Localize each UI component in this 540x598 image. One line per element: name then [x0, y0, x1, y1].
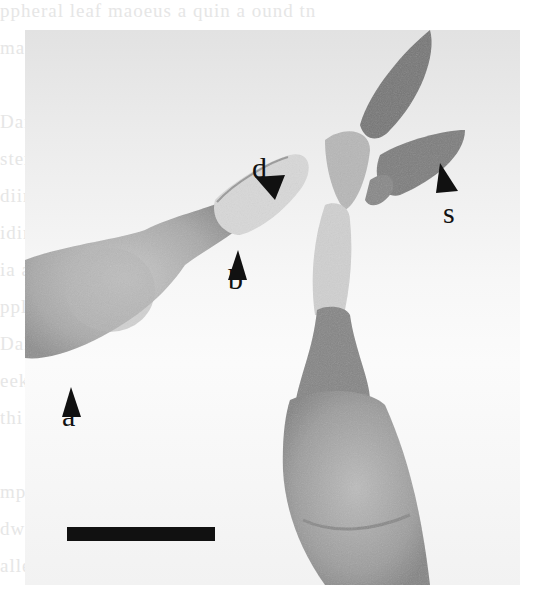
- scale-bar: [67, 527, 215, 541]
- label-a: a: [62, 401, 75, 431]
- bleed-through-line: ppheral leaf maoeus a quin a ound tn: [0, 0, 540, 30]
- specimen-illustration: [25, 30, 520, 585]
- label-b: b: [228, 264, 243, 294]
- micrograph-figure: d s b a: [25, 30, 520, 585]
- label-d: d: [252, 153, 267, 183]
- label-s: s: [443, 198, 455, 228]
